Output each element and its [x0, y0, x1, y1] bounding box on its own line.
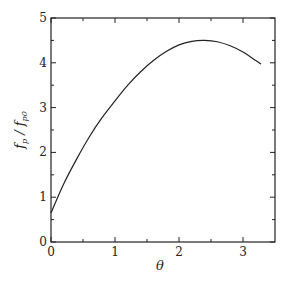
y-tick-labels: 012345 — [39, 11, 47, 249]
svg-text:2: 2 — [39, 145, 47, 159]
svg-text:5: 5 — [39, 11, 47, 25]
data-line — [51, 40, 261, 212]
y-axis-label: fp / fp0 — [12, 111, 29, 150]
line-chart: 0123 012345 θ fp / fp0 — [0, 0, 286, 283]
x-tick-labels: 0123 — [47, 245, 247, 259]
x-axis-label: θ — [156, 258, 164, 273]
svg-text:4: 4 — [39, 56, 47, 70]
svg-text:2: 2 — [175, 245, 183, 259]
svg-text:3: 3 — [239, 245, 247, 259]
svg-text:3: 3 — [39, 101, 47, 115]
svg-text:0: 0 — [39, 235, 47, 249]
svg-text:1: 1 — [111, 245, 119, 259]
svg-text:1: 1 — [39, 190, 47, 204]
svg-text:fp / fp0: fp / fp0 — [12, 111, 29, 150]
svg-text:0: 0 — [47, 245, 55, 259]
